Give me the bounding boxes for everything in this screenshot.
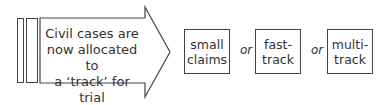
arrow-text: Civil cases are now allocated to a ‘trac… (42, 26, 142, 105)
track-label-line: fast- (262, 37, 294, 52)
track-box-multi-track: multi- track (327, 29, 373, 74)
or-connector: or (311, 43, 323, 57)
arrow-text-line: now allocated to (42, 42, 142, 74)
or-connector: or (240, 43, 252, 57)
track-label-line: multi- (332, 37, 368, 52)
track-box-small-claims: small claims (184, 29, 230, 74)
track-box-fast-track: fast- track (255, 29, 301, 74)
arrow-text-line: Civil cases are (42, 26, 142, 42)
arrow-text-line: a ‘track’ for trial (42, 74, 142, 105)
track-label-line: track (262, 52, 294, 67)
track-label-line: claims (187, 52, 227, 67)
track-label-line: small (187, 37, 227, 52)
track-label-line: track (332, 52, 368, 67)
